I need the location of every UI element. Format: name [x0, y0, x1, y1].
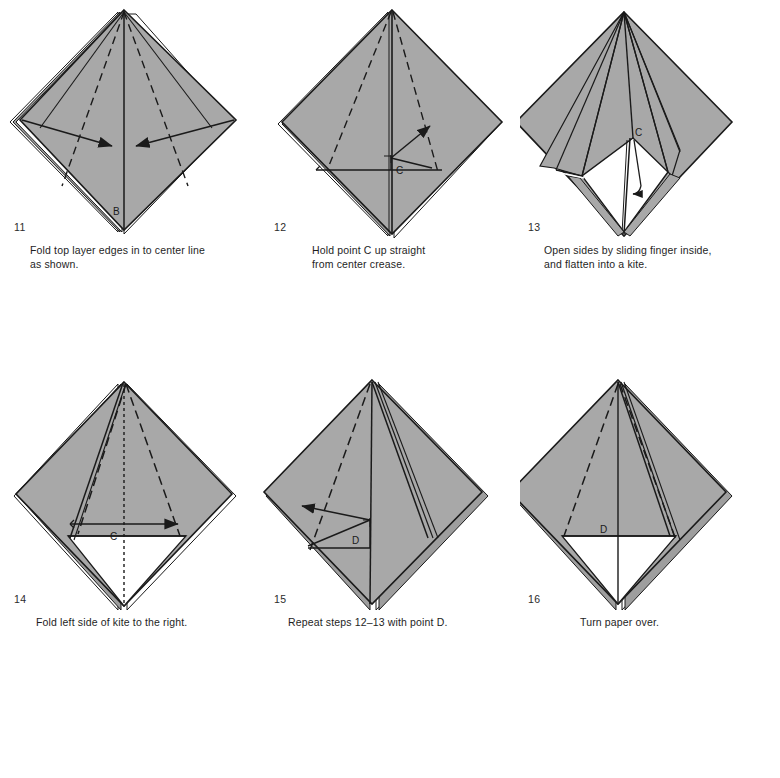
steps-grid: B 11 Fold top layer edges in to center l…	[0, 0, 780, 778]
diagram-11: B	[0, 0, 260, 270]
step-number-11: 11	[14, 222, 26, 233]
step-cell-13: C 13 Open sides by sliding finger inside…	[520, 0, 780, 370]
diagram-12: C	[260, 0, 520, 270]
step-number-13: 13	[528, 222, 540, 233]
point-label-C: C	[396, 165, 403, 176]
step-caption-15: Repeat steps 12–13 with point D.	[288, 616, 516, 630]
step-cell-15: D 15 Repeat steps 12–13 with point D.	[260, 370, 520, 740]
caption-line: as shown.	[30, 258, 258, 272]
point-label-C: C	[635, 127, 642, 138]
diagram-16: D	[520, 370, 780, 640]
instruction-sheet: B 11 Fold top layer edges in to center l…	[0, 0, 780, 778]
caption-line: Hold point C up straight	[312, 244, 540, 258]
caption-line: Open sides by sliding finger inside,	[544, 244, 772, 258]
step-number-14: 14	[14, 594, 26, 605]
caption-line: Repeat steps 12–13 with point D.	[288, 616, 516, 630]
step-cell-14: C 14 Fold left side of kite to the right…	[0, 370, 260, 740]
point-label-B: B	[113, 206, 120, 217]
point-label-D: D	[600, 524, 607, 535]
diagram-14: C	[0, 370, 260, 640]
step-caption-11: Fold top layer edges in to center line a…	[30, 244, 258, 272]
step-caption-12: Hold point C up straight from center cre…	[312, 244, 540, 272]
caption-line: Turn paper over.	[580, 616, 780, 630]
caption-line: and flatten into a kite.	[544, 258, 772, 272]
step-cell-16: D 16 Turn paper over.	[520, 370, 780, 740]
step-number-15: 15	[274, 594, 286, 605]
step-cell-11: B 11 Fold top layer edges in to center l…	[0, 0, 260, 370]
point-label-D: D	[352, 535, 359, 546]
caption-line: Fold left side of kite to the right.	[36, 616, 264, 630]
diagram-13: C	[520, 0, 780, 270]
step-caption-14: Fold left side of kite to the right.	[36, 616, 264, 630]
step-number-12: 12	[274, 222, 286, 233]
caption-line: Fold top layer edges in to center line	[30, 244, 258, 258]
step-number-16: 16	[528, 594, 540, 605]
step-cell-12: C 12 Hold point C up straight from cente…	[260, 0, 520, 370]
caption-line: from center crease.	[312, 258, 540, 272]
step-caption-16: Turn paper over.	[580, 616, 780, 630]
diagram-15: D	[260, 370, 520, 640]
point-label-C: C	[110, 531, 117, 542]
step-caption-13: Open sides by sliding finger inside, and…	[544, 244, 772, 272]
